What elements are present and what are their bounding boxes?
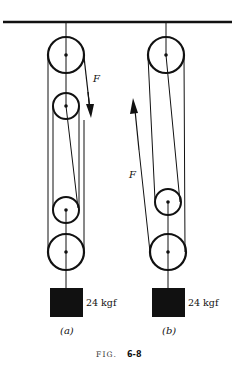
load-label-b: 24 kgf (188, 297, 220, 308)
force-arrow-a (86, 92, 94, 118)
panel-b (139, 22, 186, 288)
force-label-b: F (128, 169, 137, 180)
figure-caption-prefix: FIG. (96, 350, 117, 359)
panel-label-b: (b) (162, 325, 176, 336)
force-label-a: F (92, 73, 101, 84)
figure-caption-number: 6-8 (127, 350, 142, 359)
load-block-b (152, 288, 185, 317)
panel-label-a: (a) (60, 325, 74, 336)
load-block-a (50, 288, 83, 317)
force-arrow-b (130, 98, 139, 150)
panel-a (48, 22, 90, 288)
pulley-diagram: F 24 kgf (a) F 24 kgf (b) FIG. 6-8 (0, 0, 236, 366)
load-label-a: 24 kgf (86, 297, 118, 308)
